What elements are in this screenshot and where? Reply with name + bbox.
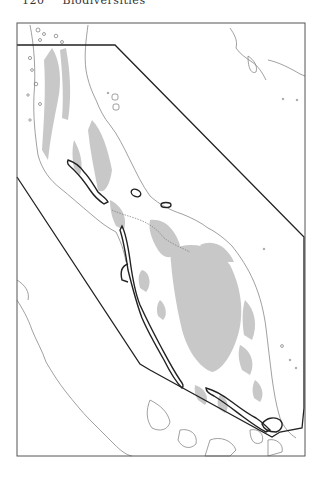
map-figure <box>0 0 323 481</box>
map-canvas <box>0 0 323 481</box>
bold-outlined-zones <box>67 160 282 432</box>
highland-areas <box>42 48 262 413</box>
